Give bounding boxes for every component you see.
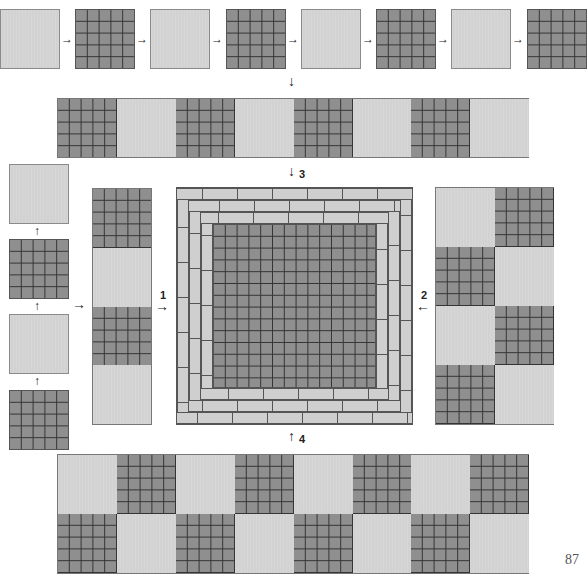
top-row-dark-tile [226,9,286,69]
top-row-dark-tile [527,9,587,69]
brick-ring-3-top [201,212,388,224]
brick-ring-1-top [177,188,412,200]
right-block-dark-tile [436,365,495,424]
second-row-dark-tile [58,99,117,157]
arrow-down-icon: ↓ [288,165,295,177]
bottom-block-dark-tile [176,514,235,573]
left-strip-light-tile [93,248,151,307]
arrow-right-icon: → [362,33,374,45]
center-panel [176,187,413,425]
bottom-block-light-tile [117,514,176,573]
arrow-right-icon: → [512,33,524,45]
brick-ring-3-right [376,224,388,388]
bottom-block-dark-tile [294,514,353,573]
arrow-down-icon: ↓ [288,75,295,87]
right-block-light-tile [436,306,495,365]
arrow-right-icon: → [136,33,148,45]
right-block-dark-tile [436,247,495,306]
arrow-right-icon: → [155,300,169,312]
left-column-dark-tile [9,390,69,450]
brick-ring-2-right [388,212,400,400]
top-row-dark-tile [75,9,135,69]
right-block-dark-tile [495,188,554,247]
second-row-dark-tile [294,99,353,157]
arrow-left-icon: ← [416,300,430,312]
bottom-block-light-tile [411,455,470,514]
second-row-dark-tile [176,99,235,157]
left-column-light-tile [9,164,69,224]
arrow-right-icon: → [437,33,449,45]
right-block-dark-tile [495,306,554,365]
left-strip-dark-tile [93,189,151,248]
left-column-dark-tile [9,239,69,299]
bottom-block-dark-tile [117,455,176,514]
second-row-dark-tile [411,99,470,157]
brick-ring-2-top [189,200,400,212]
bottom-block-dark-tile [58,514,117,573]
left-strip-dark-tile [93,307,151,366]
left-strip [92,188,152,425]
bottom-block-light-tile [294,455,353,514]
bottom-block-light-tile [235,514,294,573]
step-label-4: 4 [299,433,305,445]
arrow-right-icon: → [72,298,86,310]
bottom-block [57,454,529,574]
brick-ring-3-bottom [201,388,388,400]
top-row-light-tile [451,9,511,69]
top-row-light-tile [150,9,210,69]
top-row-light-tile [301,9,361,69]
brick-ring-2-bottom [189,400,400,412]
right-block-light-tile [495,365,554,424]
arrow-up-icon: ↑ [34,300,40,312]
right-block-light-tile [495,247,554,306]
second-row-light-tile [470,99,529,157]
bottom-block-light-tile [353,514,412,573]
center-dark-grid [213,224,376,388]
step-label-3: 3 [299,168,305,180]
arrow-right-icon: → [61,33,73,45]
right-block [435,187,554,425]
top-row-light-tile [0,9,60,69]
second-row [57,98,529,158]
second-row-light-tile [353,99,412,157]
right-block-light-tile [436,188,495,247]
left-column-light-tile [9,314,69,374]
bottom-block-dark-tile [353,455,412,514]
brick-ring-2-left [189,212,201,400]
page-number: 87 [565,552,579,568]
brick-ring-1-right [400,200,412,412]
bottom-block-light-tile [176,455,235,514]
arrow-right-icon: → [287,33,299,45]
second-row-light-tile [117,99,176,157]
bottom-block-dark-tile [235,455,294,514]
arrow-up-icon: ↑ [288,430,295,442]
left-strip-light-tile [93,365,151,424]
brick-ring-1-left [177,200,189,412]
bottom-block-light-tile [470,514,529,573]
brick-ring-1-bottom [177,412,412,424]
bottom-block-light-tile [58,455,117,514]
brick-ring-3-left [201,224,213,388]
bottom-block-dark-tile [470,455,529,514]
arrow-right-icon: → [211,33,223,45]
second-row-light-tile [235,99,294,157]
top-row-dark-tile [376,9,436,69]
bottom-block-dark-tile [411,514,470,573]
arrow-up-icon: ↑ [34,375,40,387]
arrow-up-icon: ↑ [34,225,40,237]
